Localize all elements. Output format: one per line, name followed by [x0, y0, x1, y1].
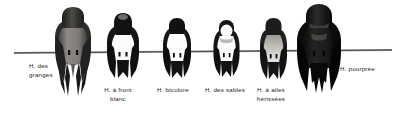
label-bank-swallow: H. des sables	[198, 86, 252, 95]
label-cliff-swallow-line1: H. à front	[97, 86, 139, 95]
label-cliff-swallow-line2: blanc	[97, 95, 139, 104]
swallow-identification-figure: H. des granges H. à front blanc H. bicol…	[0, 0, 400, 113]
bird-barn-swallow	[51, 6, 95, 98]
label-rough-winged-swallow-line2: hérissées	[248, 95, 294, 104]
label-barn-swallow: H. des granges	[29, 62, 53, 79]
bird-tree-swallow	[160, 17, 194, 82]
bird-cliff-swallow	[104, 12, 142, 84]
label-purple-martin-line1: H. pourprée	[340, 65, 375, 74]
label-rough-winged-swallow-line1: H. à ailes	[248, 86, 294, 95]
label-tree-swallow-line1: H. bicolore	[148, 86, 198, 95]
label-barn-swallow-line1: H. des	[29, 62, 53, 71]
label-cliff-swallow: H. à front blanc	[97, 86, 139, 103]
bird-purple-martin	[293, 3, 345, 96]
bird-bank-swallow	[211, 19, 242, 81]
label-rough-winged-swallow: H. à ailes hérissées	[248, 86, 294, 103]
label-barn-swallow-line2: granges	[29, 71, 53, 80]
bird-rough-winged-swallow	[257, 17, 290, 83]
label-bank-swallow-line1: H. des sables	[198, 86, 252, 95]
label-purple-martin: H. pourprée	[340, 65, 375, 74]
label-tree-swallow: H. bicolore	[148, 86, 198, 95]
